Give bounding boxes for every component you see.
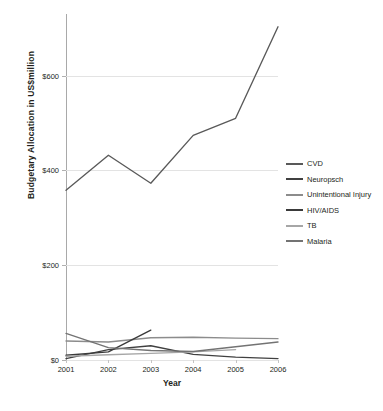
y-axis-title: Budgetary Allocation in US$million (26, 30, 36, 220)
x-tick-mark (151, 360, 152, 363)
series-line (66, 27, 278, 191)
y-tick-label: $200 (42, 261, 59, 270)
x-tick-mark (278, 360, 279, 363)
legend-item[interactable]: HIV/AIDS (286, 203, 382, 219)
plot-area: $0$200$400$600 200120022003200420052006 (66, 14, 278, 360)
x-tick-label: 2001 (58, 365, 75, 374)
x-tick-mark (236, 360, 237, 363)
legend-swatch-icon (286, 163, 303, 165)
legend-label: Unintentional Injury (307, 191, 371, 199)
series-line (66, 337, 278, 342)
x-tick-label: 2004 (185, 365, 202, 374)
legend-item[interactable]: TB (286, 218, 382, 234)
legend-item[interactable]: Neuropsch (286, 172, 382, 188)
legend-item[interactable]: Unintentional Injury (286, 187, 382, 203)
gridline (66, 360, 278, 361)
y-tick-label: $0 (51, 356, 59, 365)
legend-swatch-icon (286, 178, 303, 180)
legend-swatch-icon (286, 240, 303, 242)
x-tick-mark (108, 360, 109, 363)
x-tick-mark (193, 360, 194, 363)
x-tick-mark (66, 360, 67, 363)
legend-item[interactable]: Malaria (286, 234, 382, 250)
y-tick-label: $400 (42, 166, 59, 175)
legend-swatch-icon (286, 209, 303, 211)
series-line (66, 330, 151, 355)
legend-label: Neuropsch (307, 176, 343, 184)
legend-label: HIV/AIDS (307, 207, 339, 215)
series-line (66, 333, 278, 351)
legend: CVDNeuropschUnintentional InjuryHIV/AIDS… (286, 156, 382, 249)
line-chart: Budgetary Allocation in US$million $0$20… (0, 0, 383, 411)
x-tick-label: 2002 (100, 365, 117, 374)
legend-label: CVD (307, 160, 323, 168)
y-tick-label: $600 (42, 71, 59, 80)
legend-swatch-icon (286, 225, 303, 227)
legend-swatch-icon (286, 194, 303, 196)
x-tick-label: 2005 (227, 365, 244, 374)
x-axis-title: Year (66, 378, 278, 388)
x-tick-label: 2003 (142, 365, 159, 374)
legend-label: Malaria (307, 238, 332, 246)
series-lines (66, 14, 278, 360)
legend-label: TB (307, 222, 317, 230)
legend-item[interactable]: CVD (286, 156, 382, 172)
x-tick-label: 2006 (270, 365, 287, 374)
